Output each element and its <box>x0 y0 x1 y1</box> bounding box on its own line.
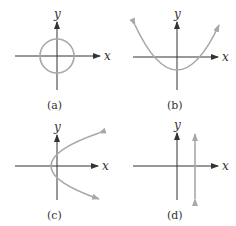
panel-caption: (a) <box>47 99 62 112</box>
y-axis-label: y <box>173 118 181 132</box>
x-axis-label: x <box>104 49 111 63</box>
y-axis-label: y <box>53 120 61 134</box>
graphs-figure: y x (a) y x (b) y x (c) y x (d) <box>0 0 236 226</box>
panel-caption: (b) <box>167 99 183 112</box>
panel-a: y x (a) <box>15 7 111 112</box>
x-axis-label: x <box>222 159 229 173</box>
panel-c: y x (c) <box>15 120 109 222</box>
panel-caption: (d) <box>167 209 183 222</box>
x-axis-label: x <box>222 50 229 64</box>
panel-b: y x (b) <box>133 7 229 112</box>
y-axis-label: y <box>173 7 181 21</box>
y-axis-label: y <box>53 7 61 21</box>
panel-caption: (c) <box>47 209 62 222</box>
x-axis-label: x <box>102 159 109 173</box>
panel-d: y x (d) <box>133 118 229 222</box>
